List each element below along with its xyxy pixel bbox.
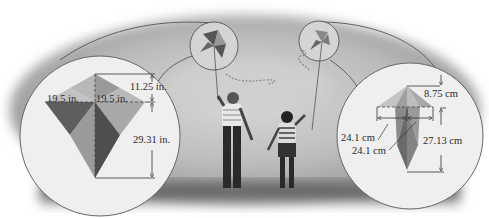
kite-diagram: 19.5 in. 19.5 in. 11.25 in. 29.31 in. 8.… (0, 0, 489, 218)
right-kite-top-height-label: 8.75 cm (424, 89, 458, 100)
left-kite-bottom-height-label: 29.31 in. (133, 135, 170, 146)
right-kite-half-width-left-label: 24.1 cm (341, 133, 375, 144)
left-kite-top-height-label: 11.25 in. (130, 82, 167, 93)
left-kite-half-width-left-label: 19.5 in. (47, 94, 79, 105)
right-kite-half-width-right-label: 24.1 cm (352, 146, 386, 157)
scene-svg (0, 0, 489, 218)
left-kite-half-width-right-label: 19.5 in. (96, 94, 128, 105)
right-kite-bottom-height-label: 27.13 cm (423, 136, 462, 147)
